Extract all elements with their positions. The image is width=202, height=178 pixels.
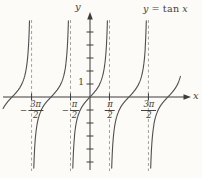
equation-label: y=tanx	[143, 3, 188, 14]
y-tick-label-1: 1	[74, 77, 84, 87]
x-tick-label-neg-pi-2: − π2	[62, 100, 80, 121]
x-axis-label: x	[193, 90, 199, 101]
y-axis-label: y	[75, 1, 81, 12]
fraction: π2	[105, 100, 115, 121]
x-tick-label-3pi-2: 3π2	[140, 100, 156, 121]
equation-arg: x	[182, 3, 188, 14]
minus-sign: −	[62, 105, 69, 115]
equation-lhs: y	[143, 3, 149, 14]
tan-plot	[0, 0, 202, 178]
fraction: 3π2	[141, 100, 156, 121]
fraction: π2	[70, 100, 80, 121]
fraction: 3π2	[28, 100, 43, 121]
equation-equals: =	[152, 3, 160, 14]
equation-func: tan	[163, 3, 180, 14]
x-tick-label-pi-2: π2	[104, 100, 115, 121]
x-tick-label-neg-3pi-2: − 3π2	[20, 100, 43, 121]
tan-graph-figure: y=tanx y x 1 − 3π2 − π2 π2 3π2	[0, 0, 202, 178]
minus-sign: −	[20, 105, 27, 115]
